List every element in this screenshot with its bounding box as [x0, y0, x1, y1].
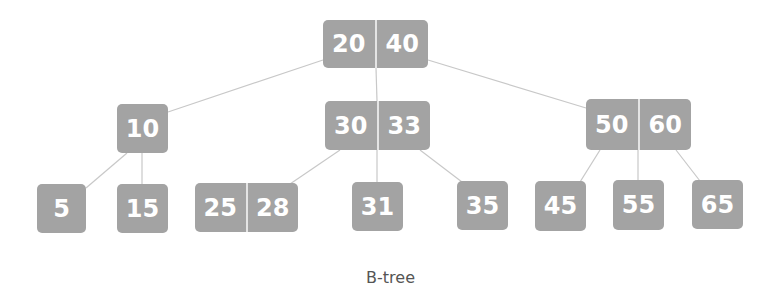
tree-node-n5060: 5060	[586, 99, 691, 150]
edge-root-n3033	[376, 68, 377, 101]
node-key: 10	[117, 104, 168, 153]
node-key: 5	[37, 184, 86, 233]
edge-n10-n5	[86, 153, 127, 188]
node-key: 33	[379, 101, 431, 150]
node-key: 55	[613, 180, 664, 230]
node-key: 28	[248, 183, 299, 232]
tree-node-n15: 15	[117, 184, 168, 233]
tree-node-root: 2040	[323, 20, 428, 68]
edge-n3033-n2528	[290, 150, 340, 184]
node-key: 25	[195, 183, 246, 232]
node-key: 30	[325, 101, 377, 150]
tree-node-n10: 10	[117, 104, 168, 153]
node-key: 65	[692, 180, 743, 229]
tree-node-n35: 35	[457, 181, 508, 230]
node-key: 20	[323, 20, 375, 68]
tree-node-n45: 45	[535, 181, 586, 231]
edge-root-n5060	[428, 60, 586, 108]
tree-node-n2528: 2528	[195, 183, 298, 232]
edge-n5060-n45	[580, 150, 600, 182]
tree-node-n5: 5	[37, 184, 86, 233]
node-key: 60	[640, 99, 692, 150]
tree-node-n55: 55	[613, 180, 664, 230]
tree-node-n3033: 3033	[325, 101, 430, 150]
edge-n5060-n65	[676, 150, 700, 181]
diagram-caption: B-tree	[0, 268, 781, 287]
node-key: 45	[535, 181, 586, 231]
tree-node-n31: 31	[352, 182, 403, 231]
node-key: 35	[457, 181, 508, 230]
node-key: 40	[377, 20, 429, 68]
tree-node-n65: 65	[692, 180, 743, 229]
edge-n3033-n35	[420, 150, 462, 182]
edge-root-n10	[168, 60, 323, 112]
node-key: 50	[586, 99, 638, 150]
node-key: 15	[117, 184, 168, 233]
node-key: 31	[352, 182, 403, 231]
